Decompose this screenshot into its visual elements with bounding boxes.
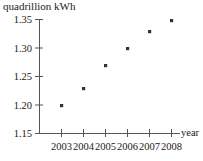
data-point [104, 64, 107, 67]
data-series [60, 19, 173, 107]
data-point [148, 30, 151, 33]
data-point [170, 19, 173, 22]
data-point [82, 87, 85, 90]
data-point [126, 47, 129, 50]
y-tick-label-1.35: 1.35 [2, 14, 32, 25]
x-tick-label-2008: 2008 [158, 141, 186, 152]
y-tick-label-1.15: 1.15 [2, 128, 32, 139]
y-tick-label-1.30: 1.30 [2, 43, 32, 54]
x-axis-title: year [181, 127, 199, 138]
y-tick-label-1.25: 1.25 [2, 71, 32, 82]
chart-container: quadrillion kWh 1.35 1.30 1.25 1.20 1.15… [0, 0, 203, 161]
data-point [60, 104, 63, 107]
y-tick-label-1.20: 1.20 [2, 100, 32, 111]
